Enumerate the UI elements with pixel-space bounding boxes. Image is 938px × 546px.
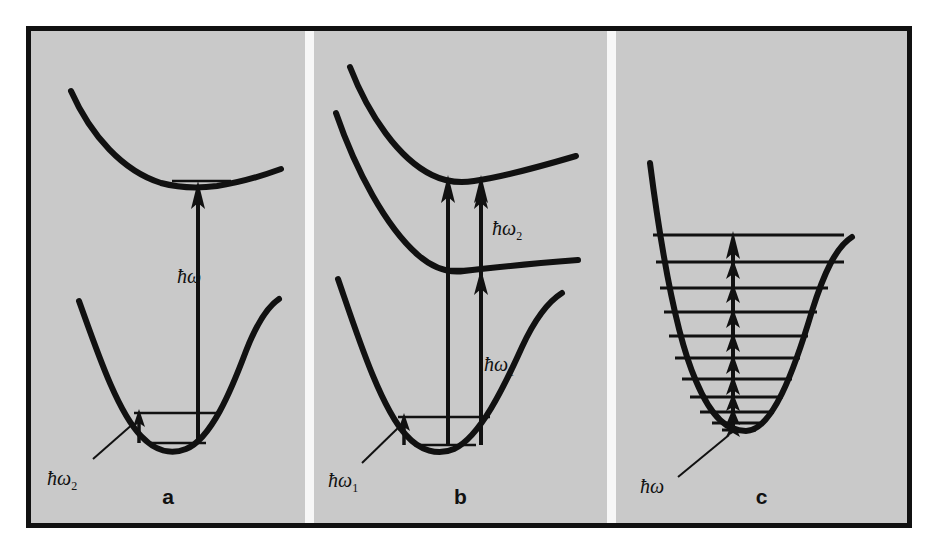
hbar-omega-2-leader-line — [93, 423, 134, 459]
upper-state-curve — [350, 67, 576, 182]
panel-a-label: a — [31, 485, 305, 509]
intermediate-state-curve — [336, 113, 578, 271]
hbar-omega-1-leader-line — [362, 427, 399, 463]
figure-frame: ħω ħω2 a — [26, 26, 912, 528]
panel-b: ħω2 ħω1 ħω1 b — [314, 31, 607, 523]
ground-state-curve — [79, 299, 279, 452]
panel-divider-b-c — [607, 31, 616, 523]
panel-c-label: c — [616, 485, 907, 509]
panel-b-graphics — [314, 31, 607, 523]
panel-a-graphics — [31, 31, 305, 523]
figure-container: ħω ħω2 a — [0, 0, 938, 546]
hbar-omega-label: ħω — [177, 265, 201, 292]
hbar-omega-leader-line — [678, 435, 729, 477]
hbar-omega-2-label: ħω2 — [492, 217, 522, 244]
panel-b-label: b — [314, 485, 607, 509]
excited-state-curve — [71, 91, 281, 188]
panel-divider-a-b — [305, 31, 314, 523]
hbar-omega-1-upper-label: ħω1 — [484, 353, 514, 380]
panel-c-graphics — [616, 31, 907, 523]
anharmonic-potential-curve — [650, 163, 852, 431]
panel-c: ħω c — [616, 31, 907, 523]
panel-a: ħω ħω2 a — [31, 31, 305, 523]
